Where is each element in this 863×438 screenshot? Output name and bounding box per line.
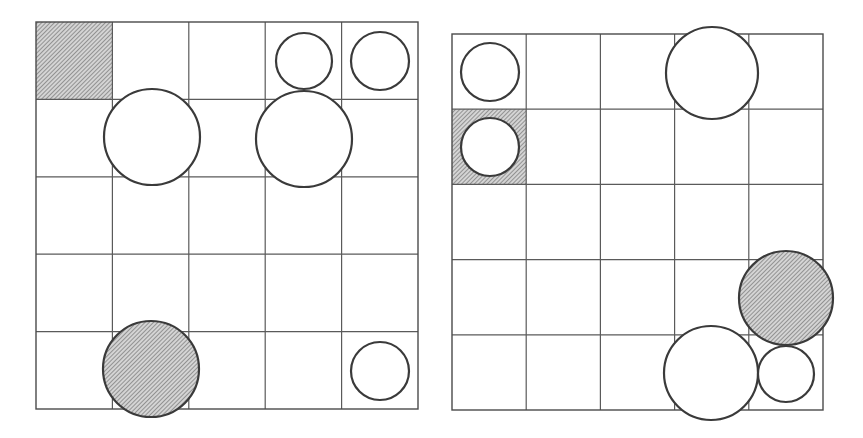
open-large-circle [664,326,758,420]
right-board [452,27,833,420]
open-small-circle [276,33,332,89]
open-large-circle [666,27,758,119]
hatched-large-circle [739,251,833,345]
hatched-cell [36,22,112,99]
open-small-circle [758,346,814,402]
open-small-circle [351,342,409,400]
diagram-canvas [0,0,863,438]
open-small-circle [461,118,519,176]
left-board [36,22,418,417]
open-large-circle [256,91,352,187]
open-large-circle [104,89,200,185]
hatched-large-circle [103,321,199,417]
grid-diagram [0,0,863,438]
open-small-circle [351,32,409,90]
open-small-circle [461,43,519,101]
